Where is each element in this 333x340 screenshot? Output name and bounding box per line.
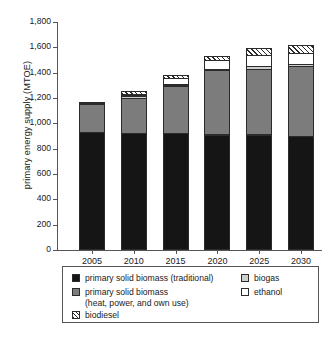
x-tick-label-2015: 2015 bbox=[156, 256, 196, 266]
bar-2030 bbox=[288, 46, 314, 250]
y-tick-mark bbox=[53, 47, 57, 48]
y-tick: 1,200 bbox=[57, 98, 58, 99]
bar-segment-heatpower bbox=[246, 69, 272, 136]
y-tick-label: 1,800 bbox=[17, 16, 51, 26]
y-tick: 1,600 bbox=[57, 47, 58, 48]
bar-segment-traditional bbox=[121, 133, 147, 250]
legend-item-heatpower: primary solid biomass (heat, power, and … bbox=[72, 287, 189, 308]
legend-label-heatpower-wrap: primary solid biomass (heat, power, and … bbox=[85, 287, 189, 308]
legend-swatch-biodiesel bbox=[72, 311, 80, 319]
x-tick-label-2005: 2005 bbox=[72, 256, 112, 266]
x-axis-line bbox=[57, 250, 322, 251]
chart-figure: primary energy supply (MTOE) 02004006008… bbox=[0, 0, 333, 340]
chart-legend: primary solid biomass (traditional) prim… bbox=[62, 266, 319, 323]
bar-segment-traditional bbox=[79, 132, 105, 250]
legend-swatch-biogas bbox=[241, 274, 249, 282]
x-tick-mark bbox=[92, 250, 93, 254]
bar-segment-heatpower bbox=[121, 98, 147, 133]
legend-swatch-ethanol bbox=[241, 288, 249, 296]
legend-item-ethanol: ethanol bbox=[241, 287, 282, 298]
bar-segment-traditional bbox=[288, 136, 314, 250]
x-tick-mark bbox=[176, 250, 177, 254]
y-tick: 200 bbox=[57, 225, 58, 226]
legend-label-heatpower-line2: (heat, power, and own use) bbox=[85, 298, 189, 309]
y-tick-label: 800 bbox=[17, 143, 51, 153]
bar-segment-heatpower bbox=[204, 70, 230, 135]
plot-area: 02004006008001,0001,2001,4001,6001,800 2… bbox=[57, 22, 322, 250]
bar-2005 bbox=[79, 102, 105, 250]
bar-2025 bbox=[246, 49, 272, 250]
bar-2020 bbox=[204, 56, 230, 250]
legend-label-biodiesel: biodiesel bbox=[85, 310, 119, 321]
y-tick-label: 400 bbox=[17, 193, 51, 203]
y-tick-mark bbox=[53, 73, 57, 74]
y-tick-label: 1,600 bbox=[17, 41, 51, 51]
y-tick-mark bbox=[53, 225, 57, 226]
legend-swatch-heatpower bbox=[72, 288, 80, 296]
x-tick-label-2025: 2025 bbox=[239, 256, 279, 266]
bar-2010 bbox=[121, 92, 147, 250]
y-axis-line bbox=[57, 22, 58, 250]
y-tick-label: 0 bbox=[17, 244, 51, 254]
y-tick-mark bbox=[53, 199, 57, 200]
y-tick-mark bbox=[53, 149, 57, 150]
bar-segment-heatpower bbox=[163, 86, 189, 134]
y-tick-label: 600 bbox=[17, 168, 51, 178]
legend-label-heatpower: primary solid biomass bbox=[85, 287, 189, 298]
y-tick-label: 1,400 bbox=[17, 67, 51, 77]
x-tick-label-2010: 2010 bbox=[114, 256, 154, 266]
y-tick-label: 1,200 bbox=[17, 92, 51, 102]
y-tick-mark bbox=[53, 98, 57, 99]
x-tick-mark bbox=[134, 250, 135, 254]
bar-2015 bbox=[163, 76, 189, 250]
legend-label-ethanol: ethanol bbox=[254, 287, 282, 298]
y-tick: 400 bbox=[57, 199, 58, 200]
y-tick-mark bbox=[53, 174, 57, 175]
y-tick: 1,800 bbox=[57, 22, 58, 23]
bar-segment-ethanol bbox=[246, 55, 272, 67]
legend-item-biodiesel: biodiesel bbox=[72, 310, 119, 321]
y-tick: 800 bbox=[57, 149, 58, 150]
bar-segment-traditional bbox=[246, 135, 272, 250]
x-tick-label-2020: 2020 bbox=[197, 256, 237, 266]
bar-segment-traditional bbox=[163, 133, 189, 250]
legend-item-biogas: biogas bbox=[241, 273, 279, 284]
y-tick-mark bbox=[53, 250, 57, 251]
y-tick: 600 bbox=[57, 174, 58, 175]
bar-segment-heatpower bbox=[288, 66, 314, 136]
y-tick: 1,400 bbox=[57, 73, 58, 74]
y-tick-label: 1,000 bbox=[17, 117, 51, 127]
y-tick: 1,000 bbox=[57, 123, 58, 124]
legend-swatch-traditional bbox=[72, 274, 80, 282]
y-tick-label: 200 bbox=[17, 219, 51, 229]
y-tick: 0 bbox=[57, 250, 58, 251]
caption-strip bbox=[0, 331, 333, 340]
bar-segment-heatpower bbox=[79, 104, 105, 133]
legend-item-traditional: primary solid biomass (traditional) bbox=[72, 273, 213, 284]
bar-segment-traditional bbox=[204, 135, 230, 250]
y-tick-mark bbox=[53, 22, 57, 23]
x-tick-mark bbox=[217, 250, 218, 254]
x-tick-label-2030: 2030 bbox=[281, 256, 321, 266]
bar-segment-ethanol bbox=[288, 53, 314, 64]
y-tick-mark bbox=[53, 123, 57, 124]
legend-label-biogas: biogas bbox=[254, 273, 279, 284]
x-tick-mark bbox=[301, 250, 302, 254]
x-tick-mark bbox=[259, 250, 260, 254]
legend-label-traditional: primary solid biomass (traditional) bbox=[85, 273, 213, 284]
